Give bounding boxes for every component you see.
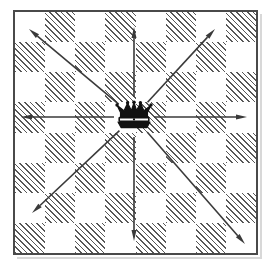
board-square-r2-c7 xyxy=(226,72,256,102)
board-square-r0-c4 xyxy=(136,12,166,42)
board-square-r1-c1 xyxy=(45,42,75,72)
board-square-r2-c6 xyxy=(196,72,226,102)
board-square-r2-c1 xyxy=(45,72,75,102)
board-square-r5-c7 xyxy=(226,163,256,193)
chess-queen-moves-figure xyxy=(0,0,273,268)
board-square-r5-c1 xyxy=(45,163,75,193)
board-square-r7-c3 xyxy=(105,223,135,253)
board-square-r7-c6 xyxy=(196,223,226,253)
board-square-r6-c4 xyxy=(136,193,166,223)
board-square-r3-c6 xyxy=(196,102,226,132)
board-square-r6-c5 xyxy=(166,193,196,223)
board-square-r2-c2 xyxy=(75,72,105,102)
board-square-r3-c0 xyxy=(15,102,45,132)
board-square-r7-c2 xyxy=(75,223,105,253)
board-square-r6-c6 xyxy=(196,193,226,223)
board-square-r6-c7 xyxy=(226,193,256,223)
board-square-r4-c2 xyxy=(75,133,105,163)
board-square-r1-c0 xyxy=(15,42,45,72)
board-square-r5-c5 xyxy=(166,163,196,193)
board-square-r4-c0 xyxy=(15,133,45,163)
queen-piece xyxy=(113,99,155,135)
board-square-r5-c2 xyxy=(75,163,105,193)
board-square-r1-c2 xyxy=(75,42,105,72)
board-square-r2-c4 xyxy=(136,72,166,102)
board-square-r6-c3 xyxy=(105,193,135,223)
board-square-r5-c4 xyxy=(136,163,166,193)
board-square-r7-c0 xyxy=(15,223,45,253)
board-square-r1-c5 xyxy=(166,42,196,72)
board-square-r2-c0 xyxy=(15,72,45,102)
board-square-r4-c7 xyxy=(226,133,256,163)
board-square-r4-c3 xyxy=(105,133,135,163)
board-square-r4-c4 xyxy=(136,133,166,163)
board-square-r1-c3 xyxy=(105,42,135,72)
board-square-r1-c6 xyxy=(196,42,226,72)
board-square-r7-c5 xyxy=(166,223,196,253)
board-square-r2-c3 xyxy=(105,72,135,102)
board-square-r5-c3 xyxy=(105,163,135,193)
board-square-r2-c5 xyxy=(166,72,196,102)
queen-icon xyxy=(114,100,154,134)
board-square-r0-c0 xyxy=(15,12,45,42)
board-square-r0-c6 xyxy=(196,12,226,42)
board-square-r1-c4 xyxy=(136,42,166,72)
board-square-r3-c1 xyxy=(45,102,75,132)
board-square-r5-c6 xyxy=(196,163,226,193)
board-square-r4-c1 xyxy=(45,133,75,163)
board-square-r3-c7 xyxy=(226,102,256,132)
board-square-r5-c0 xyxy=(15,163,45,193)
board-square-r1-c7 xyxy=(226,42,256,72)
board-square-r7-c7 xyxy=(226,223,256,253)
board-square-r3-c5 xyxy=(166,102,196,132)
board-square-r6-c1 xyxy=(45,193,75,223)
board-square-r6-c0 xyxy=(15,193,45,223)
board-square-r0-c1 xyxy=(45,12,75,42)
board-square-r7-c1 xyxy=(45,223,75,253)
board-square-r0-c5 xyxy=(166,12,196,42)
board-square-r0-c3 xyxy=(105,12,135,42)
board-square-r0-c2 xyxy=(75,12,105,42)
board-square-r3-c2 xyxy=(75,102,105,132)
board-square-r4-c5 xyxy=(166,133,196,163)
board-square-r4-c6 xyxy=(196,133,226,163)
board-square-r6-c2 xyxy=(75,193,105,223)
board-square-r7-c4 xyxy=(136,223,166,253)
board-square-r0-c7 xyxy=(226,12,256,42)
